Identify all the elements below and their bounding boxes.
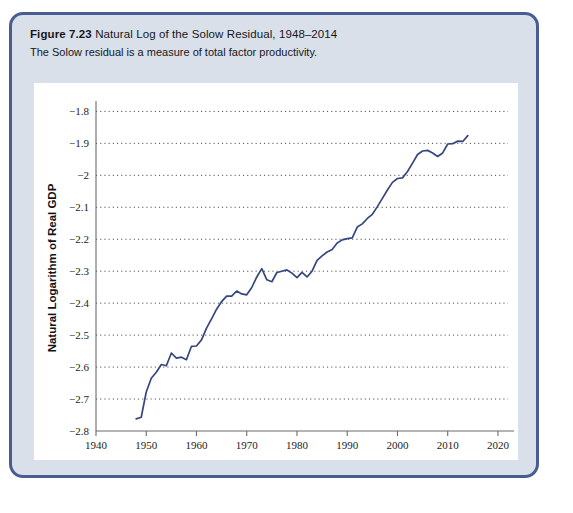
y-tick-label: −2.7 bbox=[69, 393, 89, 405]
y-tick-label: −2.2 bbox=[69, 233, 89, 245]
solow-residual-line-chart: −1.8−1.9−2−2.1−2.2−2.3−2.4−2.5−2.6−2.7−2… bbox=[34, 83, 518, 460]
y-tick-label: −2.6 bbox=[69, 361, 89, 373]
figure-caption-title-line: Figure 7.23 Natural Log of the Solow Res… bbox=[30, 27, 520, 42]
figure-card: Figure 7.23 Natural Log of the Solow Res… bbox=[9, 12, 539, 478]
figure-caption: Figure 7.23 Natural Log of the Solow Res… bbox=[30, 27, 520, 60]
x-tick-label: 1980 bbox=[286, 439, 309, 451]
y-axis-title: Natural Logarithm of Real GDP bbox=[46, 183, 58, 352]
figure-subtitle: The Solow residual is a measure of total… bbox=[30, 45, 520, 60]
x-tick-label: 1940 bbox=[85, 439, 108, 451]
x-axis-title: Year bbox=[290, 459, 315, 460]
y-tick-label: −2.8 bbox=[69, 425, 89, 437]
gridlines-group bbox=[96, 111, 508, 399]
x-tick-label: 2000 bbox=[386, 439, 409, 451]
y-tick-label: −2.1 bbox=[69, 201, 89, 213]
y-tick-label: −2.4 bbox=[69, 297, 89, 309]
y-tick-label: −2.5 bbox=[69, 329, 89, 341]
x-tick-label: 1960 bbox=[185, 439, 208, 451]
data-line-solow-residual bbox=[136, 136, 468, 419]
figure-number-label: Figure 7.23 bbox=[30, 28, 92, 40]
x-tick-label: 1950 bbox=[135, 439, 158, 451]
y-tick-label: −2.3 bbox=[69, 265, 89, 277]
data-series-group bbox=[136, 136, 468, 419]
y-tick-label: −1.8 bbox=[69, 105, 89, 117]
x-tick-label: 2010 bbox=[437, 439, 460, 451]
x-axis-group: 194019501960197019801990200020102020 bbox=[85, 431, 514, 451]
x-tick-label: 1970 bbox=[236, 439, 258, 451]
figure-title-text: Natural Log of the Solow Residual, 1948–… bbox=[95, 28, 337, 40]
x-tick-label: 1990 bbox=[336, 439, 359, 451]
x-tick-label: 2020 bbox=[487, 439, 510, 451]
y-tick-label: −2 bbox=[77, 169, 89, 181]
y-tick-label: −1.9 bbox=[69, 137, 89, 149]
chart-plot-panel: −1.8−1.9−2−2.1−2.2−2.3−2.4−2.5−2.6−2.7−2… bbox=[34, 83, 518, 460]
y-axis-group: −1.8−1.9−2−2.1−2.2−2.3−2.4−2.5−2.6−2.7−2… bbox=[69, 101, 96, 437]
